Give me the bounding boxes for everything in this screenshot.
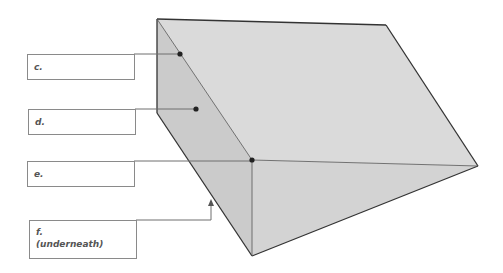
label-f: f. bbox=[36, 227, 43, 238]
dot-e bbox=[249, 157, 254, 162]
dot-d bbox=[193, 106, 198, 111]
label-box-e[interactable]: e. bbox=[27, 161, 135, 187]
arrowhead-f-icon bbox=[208, 199, 214, 206]
label-box-f[interactable]: f. (underneath) bbox=[29, 220, 137, 259]
label-c: c. bbox=[34, 62, 43, 73]
label-f-sub: (underneath) bbox=[36, 239, 103, 250]
leader-f bbox=[136, 205, 211, 220]
dot-c bbox=[177, 51, 182, 56]
front-face bbox=[252, 160, 478, 256]
label-box-c[interactable]: c. bbox=[27, 54, 135, 80]
label-box-d[interactable]: d. bbox=[28, 109, 136, 135]
label-e: e. bbox=[34, 169, 44, 180]
label-d: d. bbox=[35, 117, 45, 128]
